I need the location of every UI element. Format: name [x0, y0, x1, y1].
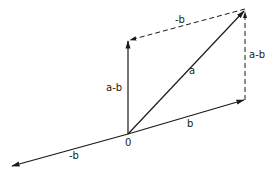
label-a-minus-b-left: a-b — [106, 82, 122, 93]
label-neg-b-top: -b — [175, 14, 185, 25]
label-neg-b-bottom: -b — [69, 150, 79, 161]
vector-a-arrow — [128, 11, 244, 134]
vector-diagram: a-b -b a-b a b 0 -b — [0, 0, 276, 175]
label-a-minus-b-right: a-b — [249, 49, 265, 60]
dashed-neg-b-arrow — [130, 9, 245, 40]
label-b: b — [187, 118, 193, 129]
label-a: a — [189, 65, 195, 76]
vector-b-arrow — [128, 100, 244, 134]
label-origin: 0 — [125, 137, 131, 148]
